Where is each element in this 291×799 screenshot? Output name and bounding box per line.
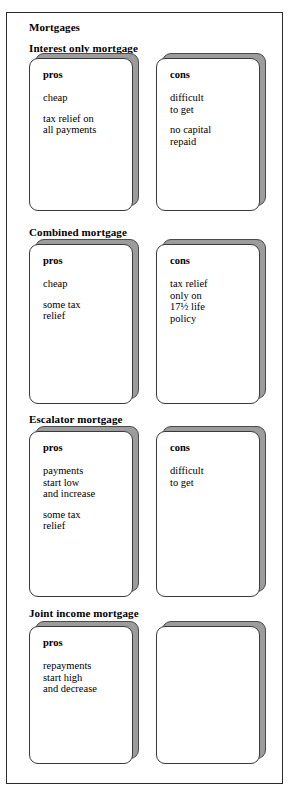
card-point: tax relief only on 17½ life policy — [170, 278, 252, 324]
card-point: difficult to get — [170, 465, 252, 488]
card-label-cons: cons — [170, 442, 252, 454]
card-point: difficult to get — [170, 92, 252, 115]
cons-card-combined-mortgage[interactable]: cons tax relief only on 17½ life policy — [156, 244, 260, 404]
card-label-cons: cons — [170, 255, 252, 267]
card-points-pros: repayments start high and decrease — [43, 660, 125, 695]
pros-card-interest-only-mortgage[interactable]: pros cheap tax relief on all payments — [29, 58, 133, 211]
card-points-cons: difficult to get no capital repaid — [170, 92, 252, 147]
pros-card-joint-income-mortgage[interactable]: pros repayments start high and decrease — [29, 626, 133, 764]
card-points-pros: cheap tax relief on all payments — [43, 92, 125, 136]
pros-card-combined-mortgage[interactable]: pros cheap some tax relief — [29, 244, 133, 404]
card-label-pros: pros — [43, 637, 125, 649]
cons-card-interest-only-mortgage[interactable]: cons difficult to get no capital repaid — [156, 58, 260, 211]
card-label-cons: cons — [170, 69, 252, 81]
page-title: Mortgages — [29, 21, 80, 33]
card-points-pros: payments start low and increase some tax… — [43, 465, 125, 532]
cons-card-joint-income-mortgage[interactable] — [156, 626, 260, 764]
card-point: some tax relief — [43, 509, 125, 532]
card-point: no capital repaid — [170, 124, 252, 147]
card-label-pros: pros — [43, 255, 125, 267]
card-points-cons: tax relief only on 17½ life policy — [170, 278, 252, 324]
card-point: some tax relief — [43, 299, 125, 322]
card-point: repayments start high and decrease — [43, 660, 125, 695]
card-point: cheap — [43, 278, 125, 290]
card-point: cheap — [43, 92, 125, 104]
section-heading-combined-mortgage: Combined mortgage — [29, 226, 127, 238]
card-label-pros: pros — [43, 442, 125, 454]
card-point: payments start low and increase — [43, 465, 125, 500]
pros-card-escalator-mortgage[interactable]: pros payments start low and increase som… — [29, 431, 133, 597]
cons-card-escalator-mortgage[interactable]: cons difficult to get — [156, 431, 260, 597]
section-heading-joint-income-mortgage: Joint income mortgage — [29, 607, 139, 619]
card-points-pros: cheap some tax relief — [43, 278, 125, 322]
mortgages-diagram-frame: Mortgages Interest only mortgage pros ch… — [6, 12, 283, 784]
card-points-cons: difficult to get — [170, 465, 252, 488]
card-point: tax relief on all payments — [43, 113, 125, 136]
card-label-pros: pros — [43, 69, 125, 81]
section-heading-escalator-mortgage: Escalator mortgage — [29, 413, 123, 425]
